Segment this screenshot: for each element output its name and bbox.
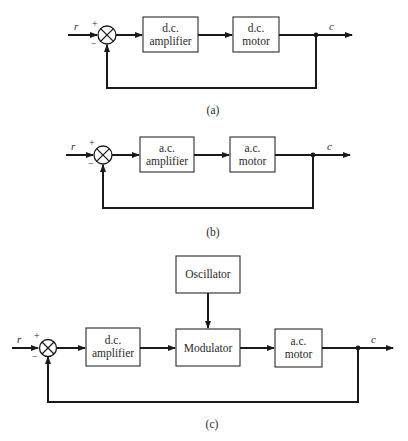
output-signal-label: c bbox=[371, 333, 376, 345]
modulator-block: Modulator bbox=[176, 329, 240, 366]
diagram-b: r + − a.c. amplifier a.c. motor c (b) bbox=[66, 137, 350, 239]
svg-text:a.c.: a.c. bbox=[245, 142, 261, 154]
ac-motor-block: a.c. motor bbox=[275, 329, 322, 367]
svg-text:motor: motor bbox=[285, 348, 313, 360]
svg-text:Modulator: Modulator bbox=[184, 342, 233, 354]
caption: (a) bbox=[207, 104, 220, 117]
svg-text:motor: motor bbox=[239, 155, 267, 167]
svg-text:motor: motor bbox=[242, 35, 270, 47]
dc-amplifier-block: d.c. amplifier bbox=[143, 17, 198, 52]
summing-junction bbox=[94, 146, 112, 164]
input-signal-label: r bbox=[17, 333, 22, 345]
output-signal-label: c bbox=[327, 140, 332, 152]
svg-text:d.c.: d.c. bbox=[162, 22, 179, 34]
input-signal-label: r bbox=[71, 140, 76, 152]
plus-sign: + bbox=[89, 137, 95, 148]
minus-sign: − bbox=[32, 351, 38, 362]
svg-text:a.c.: a.c. bbox=[159, 142, 175, 154]
svg-text:a.c.: a.c. bbox=[291, 335, 307, 347]
plus-sign: + bbox=[92, 18, 98, 29]
svg-text:Oscillator: Oscillator bbox=[185, 268, 231, 280]
control-system-diagrams: r + − d.c. amplifier d.c. motor c (a) r … bbox=[0, 0, 408, 441]
caption: (b) bbox=[206, 226, 220, 239]
svg-text:d.c.: d.c. bbox=[248, 22, 265, 34]
minus-sign: − bbox=[88, 158, 94, 169]
caption: (c) bbox=[206, 418, 219, 431]
diagram-a: r + − d.c. amplifier d.c. motor c (a) bbox=[68, 17, 352, 117]
ac-motor-block: a.c. motor bbox=[230, 137, 275, 172]
feedback-path bbox=[107, 35, 316, 88]
summing-junction bbox=[40, 340, 57, 357]
dc-motor-block: d.c. motor bbox=[233, 17, 279, 52]
dc-amplifier-block: d.c. amplifier bbox=[86, 328, 140, 366]
svg-text:amplifier: amplifier bbox=[149, 35, 191, 48]
summing-junction bbox=[98, 26, 116, 44]
svg-text:amplifier: amplifier bbox=[146, 155, 188, 168]
output-signal-label: c bbox=[329, 20, 334, 32]
svg-text:d.c.: d.c. bbox=[105, 334, 122, 346]
diagram-c: Oscillator r + − d.c. amplifier Modulato… bbox=[12, 256, 393, 431]
ac-amplifier-block: a.c. amplifier bbox=[140, 137, 194, 172]
plus-sign: + bbox=[34, 330, 40, 341]
feedback-path bbox=[103, 155, 313, 208]
input-signal-label: r bbox=[74, 20, 79, 32]
svg-text:amplifier: amplifier bbox=[92, 347, 134, 360]
oscillator-block: Oscillator bbox=[176, 256, 240, 293]
minus-sign: − bbox=[91, 38, 97, 49]
